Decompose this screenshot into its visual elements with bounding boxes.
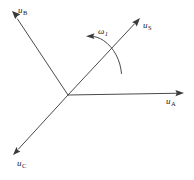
axis-u-c-line: [19, 95, 69, 149]
label-u-a: uA: [166, 97, 175, 106]
rotation-arc-omega-1: [86, 33, 122, 73]
label-u-b-symbol: u: [18, 5, 23, 15]
axis-u-c: [13, 95, 68, 155]
label-omega-1-symbol: ω: [98, 26, 104, 36]
label-u-c: uC: [17, 159, 26, 168]
axis-u-b: [12, 11, 68, 95]
label-u-b-subscript: B: [23, 9, 27, 16]
vector-diagram-figure: uB uS uA uC ω1: [0, 0, 194, 180]
label-u-c-subscript: C: [22, 162, 26, 169]
phasor-diagram-canvas: [0, 0, 194, 180]
label-omega-1: ω1: [98, 27, 108, 36]
label-u-c-symbol: u: [17, 158, 22, 168]
label-u-s-symbol: u: [143, 20, 148, 30]
label-u-b: uB: [18, 6, 27, 15]
axis-u-a-line: [68, 93, 180, 95]
axis-u-b-line: [18, 19, 69, 95]
label-u-a-subscript: A: [171, 100, 176, 107]
label-u-a-symbol: u: [166, 96, 171, 106]
label-u-s: uS: [143, 21, 151, 30]
label-omega-1-subscript: 1: [105, 30, 108, 37]
label-u-s-subscript: S: [148, 24, 152, 31]
